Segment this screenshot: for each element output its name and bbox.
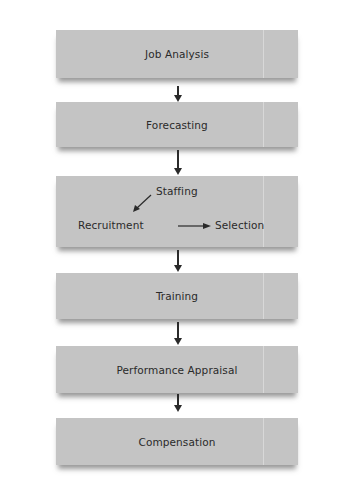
step-label: Training bbox=[156, 290, 198, 302]
arrow-down-icon bbox=[177, 250, 179, 266]
box-divider bbox=[263, 418, 264, 465]
step-compensation: Compensation bbox=[56, 418, 298, 465]
box-divider bbox=[263, 102, 264, 147]
step-staffing: Staffing Recruitment Selection bbox=[56, 176, 298, 247]
arrow-down-icon bbox=[177, 150, 179, 169]
arrow-down-icon bbox=[177, 322, 179, 339]
box-divider bbox=[263, 30, 264, 78]
sub-label-recruitment: Recruitment bbox=[78, 219, 144, 231]
step-label: Forecasting bbox=[146, 119, 208, 131]
arrow-diagonal-icon bbox=[56, 176, 298, 247]
box-divider bbox=[263, 273, 264, 319]
step-job-analysis: Job Analysis bbox=[56, 30, 298, 78]
step-label: Compensation bbox=[139, 436, 216, 448]
step-performance-appraisal: Performance Appraisal bbox=[56, 346, 298, 393]
box-divider bbox=[263, 346, 264, 393]
arrow-down-icon bbox=[177, 86, 179, 96]
step-label: Job Analysis bbox=[145, 48, 209, 60]
arrow-down-icon bbox=[177, 394, 179, 406]
sub-label-selection: Selection bbox=[215, 219, 264, 231]
step-training: Training bbox=[56, 273, 298, 319]
step-label: Performance Appraisal bbox=[117, 364, 238, 376]
step-forecasting: Forecasting bbox=[56, 102, 298, 147]
